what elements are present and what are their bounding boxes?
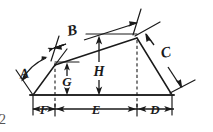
label-d: D — [149, 102, 160, 117]
upper-slope-edge — [55, 38, 137, 65]
arrow-c-bottom — [176, 79, 183, 88]
label-h: H — [93, 64, 106, 79]
label-e: E — [91, 102, 101, 117]
extension-lines — [16, 9, 195, 116]
drawing-page: A B C D E F G H 2 — [0, 0, 213, 132]
label-a: A — [18, 66, 30, 82]
page-number: 2 — [0, 112, 6, 127]
left-slope-edge — [33, 65, 55, 95]
ext-c-bottom — [170, 80, 195, 93]
arrow-c-top — [145, 33, 152, 42]
label-c: C — [159, 43, 173, 61]
ext-b-right — [133, 9, 141, 35]
label-f: F — [39, 102, 49, 117]
dim-line-b-right — [84, 23, 137, 40]
arrow-a-upper — [40, 56, 48, 61]
label-g: G — [62, 74, 72, 89]
ext-c-top — [135, 22, 160, 36]
label-b: B — [65, 21, 79, 39]
dimension-drawing-canvas: A B C D E F G H 2 — [0, 0, 213, 132]
